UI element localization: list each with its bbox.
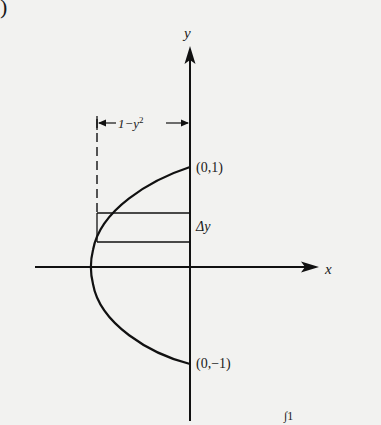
y-axis-label: y	[184, 26, 191, 41]
strip-width-label: 1−y2	[117, 116, 145, 130]
width-left-arrowhead-icon	[98, 120, 106, 127]
figure-part-label: )	[0, 0, 7, 18]
strip-width-base: 1−y	[118, 116, 139, 131]
x-axis-label: x	[325, 262, 332, 277]
width-right-arrowhead-icon	[181, 120, 189, 127]
point-label-bottom: (0,−1)	[196, 357, 231, 371]
delta-y-label: Δy	[196, 220, 210, 234]
strip-width-exponent: 2	[139, 115, 144, 125]
partial-integral-text: ∫1	[284, 410, 293, 422]
parabola-curve	[91, 167, 190, 364]
point-label-top: (0,1)	[196, 161, 223, 175]
